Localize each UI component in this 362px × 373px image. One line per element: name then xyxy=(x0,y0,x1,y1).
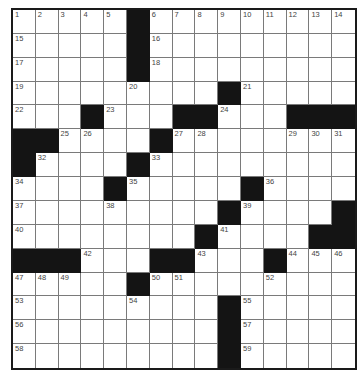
grid-cell[interactable] xyxy=(36,225,59,249)
grid-cell[interactable] xyxy=(264,129,287,153)
grid-cell[interactable] xyxy=(332,296,355,320)
grid-cell[interactable] xyxy=(218,177,241,201)
grid-cell[interactable]: 4 xyxy=(81,10,104,34)
grid-cell[interactable]: 44 xyxy=(287,249,310,273)
grid-cell[interactable]: 3 xyxy=(59,10,82,34)
grid-cell[interactable] xyxy=(81,58,104,82)
grid-cell[interactable] xyxy=(332,58,355,82)
grid-cell[interactable]: 15 xyxy=(13,34,36,58)
grid-cell[interactable] xyxy=(241,273,264,297)
grid-cell[interactable] xyxy=(287,273,310,297)
grid-cell[interactable] xyxy=(59,58,82,82)
grid-cell[interactable] xyxy=(264,201,287,225)
grid-cell[interactable]: 10 xyxy=(241,10,264,34)
grid-cell[interactable] xyxy=(264,320,287,344)
grid-cell[interactable]: 59 xyxy=(241,344,264,368)
grid-cell[interactable]: 28 xyxy=(195,129,218,153)
grid-cell[interactable] xyxy=(218,58,241,82)
grid-cell[interactable] xyxy=(81,273,104,297)
grid-cell[interactable] xyxy=(287,153,310,177)
grid-cell[interactable] xyxy=(218,249,241,273)
grid-cell[interactable] xyxy=(309,296,332,320)
grid-cell[interactable]: 13 xyxy=(309,10,332,34)
grid-cell[interactable] xyxy=(150,225,173,249)
grid-cell[interactable]: 33 xyxy=(150,153,173,177)
grid-cell[interactable]: 39 xyxy=(241,201,264,225)
grid-cell[interactable]: 52 xyxy=(264,273,287,297)
grid-cell[interactable] xyxy=(127,225,150,249)
grid-cell[interactable] xyxy=(287,296,310,320)
grid-cell[interactable] xyxy=(59,153,82,177)
grid-cell[interactable] xyxy=(287,201,310,225)
grid-cell[interactable] xyxy=(36,58,59,82)
grid-cell[interactable]: 17 xyxy=(13,58,36,82)
grid-cell[interactable]: 30 xyxy=(309,129,332,153)
grid-cell[interactable]: 42 xyxy=(81,249,104,273)
grid-cell[interactable] xyxy=(36,34,59,58)
grid-cell[interactable]: 41 xyxy=(218,225,241,249)
grid-cell[interactable] xyxy=(104,153,127,177)
grid-cell[interactable]: 53 xyxy=(13,296,36,320)
grid-cell[interactable] xyxy=(195,273,218,297)
grid-cell[interactable] xyxy=(264,105,287,129)
grid-cell[interactable] xyxy=(264,58,287,82)
grid-cell[interactable]: 31 xyxy=(332,129,355,153)
grid-cell[interactable] xyxy=(218,273,241,297)
grid-cell[interactable] xyxy=(81,320,104,344)
grid-cell[interactable]: 35 xyxy=(127,177,150,201)
grid-cell[interactable] xyxy=(173,201,196,225)
grid-cell[interactable] xyxy=(309,153,332,177)
grid-cell[interactable] xyxy=(127,129,150,153)
grid-cell[interactable] xyxy=(287,225,310,249)
grid-cell[interactable] xyxy=(241,34,264,58)
grid-cell[interactable] xyxy=(104,249,127,273)
grid-cell[interactable]: 23 xyxy=(104,105,127,129)
grid-cell[interactable] xyxy=(264,296,287,320)
grid-cell[interactable] xyxy=(287,34,310,58)
grid-cell[interactable] xyxy=(81,82,104,106)
grid-cell[interactable]: 34 xyxy=(13,177,36,201)
grid-cell[interactable] xyxy=(104,58,127,82)
grid-cell[interactable] xyxy=(104,344,127,368)
grid-cell[interactable]: 8 xyxy=(195,10,218,34)
grid-cell[interactable] xyxy=(81,225,104,249)
grid-cell[interactable] xyxy=(104,273,127,297)
grid-cell[interactable] xyxy=(81,201,104,225)
grid-cell[interactable] xyxy=(309,273,332,297)
grid-cell[interactable]: 36 xyxy=(264,177,287,201)
grid-cell[interactable] xyxy=(309,344,332,368)
grid-cell[interactable] xyxy=(241,58,264,82)
grid-cell[interactable]: 43 xyxy=(195,249,218,273)
grid-cell[interactable] xyxy=(287,58,310,82)
grid-cell[interactable] xyxy=(264,153,287,177)
grid-cell[interactable]: 16 xyxy=(150,34,173,58)
grid-cell[interactable]: 6 xyxy=(150,10,173,34)
grid-cell[interactable] xyxy=(309,82,332,106)
grid-cell[interactable] xyxy=(264,34,287,58)
grid-cell[interactable] xyxy=(309,177,332,201)
grid-cell[interactable] xyxy=(104,225,127,249)
grid-cell[interactable] xyxy=(173,58,196,82)
grid-cell[interactable] xyxy=(173,177,196,201)
grid-cell[interactable] xyxy=(309,320,332,344)
grid-cell[interactable] xyxy=(332,153,355,177)
grid-cell[interactable]: 54 xyxy=(127,296,150,320)
grid-cell[interactable]: 21 xyxy=(241,82,264,106)
grid-cell[interactable] xyxy=(173,344,196,368)
grid-cell[interactable] xyxy=(36,296,59,320)
grid-cell[interactable] xyxy=(332,82,355,106)
grid-cell[interactable] xyxy=(241,129,264,153)
grid-cell[interactable] xyxy=(287,320,310,344)
grid-cell[interactable] xyxy=(287,82,310,106)
grid-cell[interactable] xyxy=(195,344,218,368)
grid-cell[interactable]: 1 xyxy=(13,10,36,34)
grid-cell[interactable] xyxy=(81,153,104,177)
grid-cell[interactable] xyxy=(81,296,104,320)
grid-cell[interactable]: 37 xyxy=(13,201,36,225)
grid-cell[interactable] xyxy=(264,225,287,249)
grid-cell[interactable]: 29 xyxy=(287,129,310,153)
grid-cell[interactable]: 38 xyxy=(104,201,127,225)
grid-cell[interactable] xyxy=(81,34,104,58)
grid-cell[interactable] xyxy=(36,344,59,368)
grid-cell[interactable] xyxy=(59,344,82,368)
